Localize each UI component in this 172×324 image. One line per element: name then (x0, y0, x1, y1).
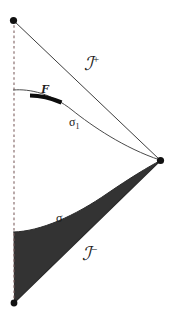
scri-plus-superscript: + (93, 53, 99, 65)
scri-minus-label: ℐ− (82, 244, 97, 263)
region-F-segment (30, 96, 62, 103)
scri-plus-glyph: ℐ (84, 53, 93, 74)
region-F-label: F (41, 82, 50, 95)
penrose-diagram-canvas (0, 0, 172, 324)
penrose-diagram-figure: ℐ+ ℐ− F σ1 σ (0, 0, 172, 324)
sigma-one-curve (14, 90, 161, 160)
sigma-one-subscript: 1 (75, 122, 79, 131)
top-vertex-dot (10, 17, 17, 24)
right-vertex-dot (157, 157, 164, 164)
sigma-label: σ (56, 212, 62, 224)
bottom-vertex-dot (11, 300, 18, 307)
scri-plus-line (14, 21, 161, 161)
scri-minus-glyph: ℐ (82, 243, 91, 264)
sigma-one-label: σ1 (69, 116, 79, 131)
scri-minus-superscript: − (91, 243, 97, 255)
scri-plus-label: ℐ+ (84, 54, 99, 73)
